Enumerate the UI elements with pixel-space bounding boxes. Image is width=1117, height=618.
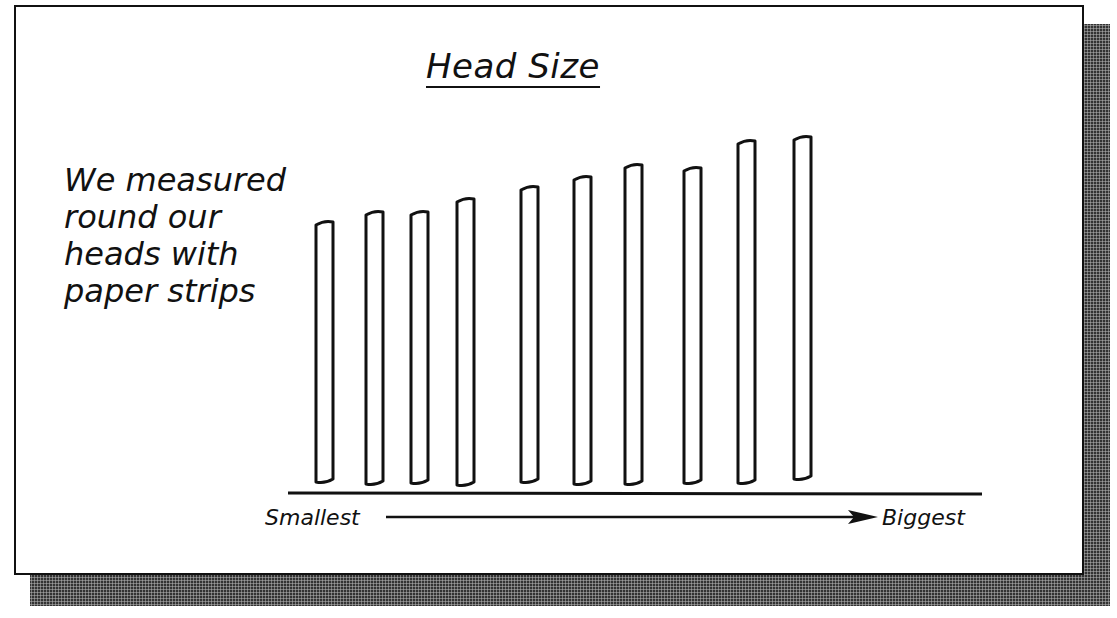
bar-2 xyxy=(366,211,383,484)
x-axis-line xyxy=(288,493,982,494)
bars-group xyxy=(316,136,811,485)
bar-chart: Smallest Biggest xyxy=(0,0,1117,618)
bar-8 xyxy=(684,167,701,483)
bar-1 xyxy=(316,221,333,482)
x-label-smallest: Smallest xyxy=(265,505,361,530)
bar-9 xyxy=(738,140,755,483)
bar-3 xyxy=(411,211,428,483)
bar-10 xyxy=(794,136,811,479)
bar-6 xyxy=(574,176,591,484)
x-label-biggest: Biggest xyxy=(882,505,966,530)
bar-5 xyxy=(521,186,538,482)
bar-4 xyxy=(457,198,474,485)
bar-7 xyxy=(625,164,642,484)
